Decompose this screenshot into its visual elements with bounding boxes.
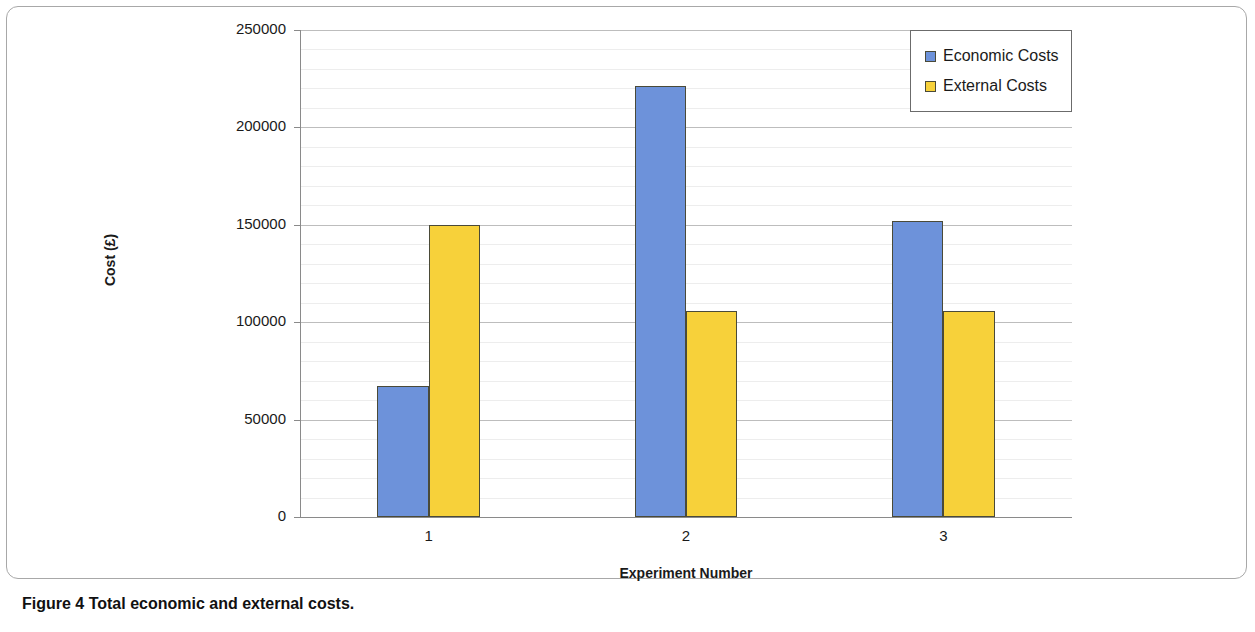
- y-axis-tick-mark: [294, 517, 300, 518]
- gridline-minor: [300, 147, 1072, 148]
- gridline-minor: [300, 186, 1072, 187]
- square-swatch-icon: [925, 51, 936, 62]
- y-axis-title: Cost (£): [102, 140, 118, 380]
- bar-economic-costs-1[interactable]: [377, 386, 428, 517]
- y-axis-tick-label: 200000: [190, 117, 286, 134]
- y-axis-tick-mark: [294, 30, 300, 31]
- gridline-minor: [300, 283, 1072, 284]
- x-axis-tick-label: 2: [646, 527, 726, 544]
- y-axis-line: [300, 30, 301, 518]
- x-axis-title: Experiment Number: [300, 565, 1072, 581]
- x-axis-tick-label: 1: [389, 527, 469, 544]
- y-axis-tick-mark: [294, 127, 300, 128]
- x-axis-tick-label: 3: [903, 527, 983, 544]
- figure-caption-prefix: Figure 4: [22, 595, 84, 612]
- bar-external-costs-2[interactable]: [686, 311, 737, 517]
- y-axis-tick-label: 250000: [190, 20, 286, 37]
- y-axis-tick-mark: [294, 225, 300, 226]
- y-axis-tick-mark: [294, 322, 300, 323]
- gridline-minor: [300, 264, 1072, 265]
- legend-label: Economic Costs: [943, 47, 1059, 65]
- gridline-major: [300, 127, 1072, 128]
- gridline-minor: [300, 205, 1072, 206]
- x-axis-line: [300, 517, 1072, 518]
- gridline-major: [300, 225, 1072, 226]
- gridline-minor: [300, 166, 1072, 167]
- bar-economic-costs-2[interactable]: [635, 86, 686, 517]
- gridline-minor: [300, 303, 1072, 304]
- legend-label: External Costs: [943, 77, 1047, 95]
- square-swatch-icon: [925, 81, 936, 92]
- chart-legend: Economic Costs External Costs: [910, 30, 1072, 112]
- bar-economic-costs-3[interactable]: [892, 221, 943, 517]
- y-axis-tick-label: 150000: [190, 215, 286, 232]
- bar-external-costs-1[interactable]: [429, 225, 480, 517]
- y-axis-tick-label: 100000: [190, 312, 286, 329]
- figure-caption-text: Total economic and external costs.: [84, 595, 354, 612]
- legend-item-economic-costs[interactable]: Economic Costs: [911, 41, 1071, 71]
- gridline-minor: [300, 244, 1072, 245]
- legend-item-external-costs[interactable]: External Costs: [911, 71, 1071, 101]
- y-axis-tick-label: 50000: [190, 410, 286, 427]
- y-axis-tick-label: 0: [190, 507, 286, 524]
- figure-caption: Figure 4 Total economic and external cos…: [22, 595, 354, 613]
- bar-external-costs-3[interactable]: [943, 311, 994, 517]
- y-axis-tick-mark: [294, 420, 300, 421]
